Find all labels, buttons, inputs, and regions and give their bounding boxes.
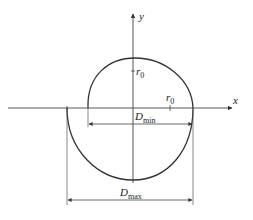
- cam-profile-diagram: y x r0 r0 Dmin Dmax: [0, 0, 253, 220]
- lower-profile-arc: [67, 108, 193, 180]
- r0-horizontal-label: r0: [166, 91, 174, 106]
- y-axis-label: y: [138, 10, 144, 22]
- x-axis-label: x: [232, 94, 238, 106]
- dmax-label: Dmax: [119, 186, 142, 201]
- r0-vertical-label: r0: [136, 65, 144, 80]
- dmin-label: Dmin: [134, 110, 155, 125]
- upper-profile-arc: [88, 58, 193, 108]
